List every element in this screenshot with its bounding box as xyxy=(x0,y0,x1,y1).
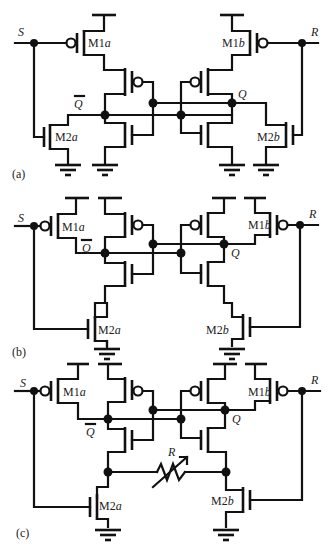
m1a-label: M1a xyxy=(88,36,111,50)
m1b-gate-bubble-icon xyxy=(259,39,268,48)
q-label: Q xyxy=(231,246,240,260)
panel-b-caption: (b) xyxy=(12,345,26,359)
resistor-label: R xyxy=(167,445,176,459)
s-input-label: S xyxy=(18,25,24,39)
m2b-label: M2b xyxy=(257,130,280,144)
r-input-label: R xyxy=(308,207,317,221)
m1b-label: M1b xyxy=(248,218,271,232)
s-input-label: S xyxy=(20,376,26,390)
q-bar-label: Q xyxy=(74,97,83,111)
m1a-label: M1a xyxy=(62,220,85,234)
r-input-label: R xyxy=(310,373,319,387)
s-input-label: S xyxy=(18,211,24,225)
m1a-gate-bubble-icon xyxy=(67,39,76,48)
panel-c-caption: (c) xyxy=(16,526,29,540)
m2a-label: M2a xyxy=(99,499,122,513)
panel-b: S M1a Q xyxy=(12,198,318,359)
q-label: Q xyxy=(238,87,247,101)
m2b-label: M2b xyxy=(211,494,234,508)
panel-c: S M1a Q R xyxy=(15,364,320,540)
m2b-label: M2b xyxy=(206,323,229,337)
m2a-label: M2a xyxy=(98,323,121,337)
m1a-label: M1a xyxy=(63,385,86,399)
q-bar-label: Q xyxy=(82,241,91,255)
sr-latch-figure: S M1a Q M2a xyxy=(0,0,335,550)
m2a-label: M2a xyxy=(55,130,78,144)
q-bar-label: Q xyxy=(86,425,95,439)
m1b-label: M1b xyxy=(222,36,245,50)
m1b-label: M1b xyxy=(248,385,271,399)
q-label: Q xyxy=(232,412,241,426)
panel-a-caption: (a) xyxy=(12,167,25,181)
r-input-label: R xyxy=(310,25,319,39)
panel-a: S M1a Q M2a xyxy=(12,15,319,181)
